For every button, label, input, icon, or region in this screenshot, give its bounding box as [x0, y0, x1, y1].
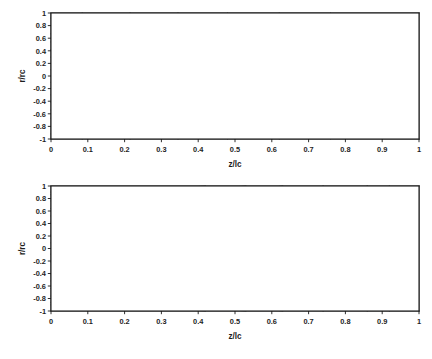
y-tick-label: -0.4 — [33, 269, 47, 278]
y-tick-label: 0.2 — [36, 59, 46, 68]
y-tick-label: -0.8 — [33, 294, 46, 303]
y-tick-label: 1 — [42, 182, 46, 191]
y-tick-label: 1 — [42, 9, 46, 18]
y-axis: 10.80.60.40.20-0.2-0.4-0.6-0.8-1 — [33, 9, 51, 144]
x-tick-label: 0.1 — [83, 145, 93, 154]
y-tick-label: 0.4 — [36, 219, 47, 228]
y-tick-label: 0 — [42, 72, 46, 81]
x-tick-label: 0.2 — [119, 317, 129, 326]
y-axis-title-group: r/rc — [18, 241, 27, 255]
x-tick-label: 0.9 — [377, 317, 387, 326]
contour-plot-top-svg: 10.80.60.40.20-0.2-0.4-0.6-0.8-100.10.20… — [0, 0, 432, 180]
x-tick-label: 0.8 — [340, 145, 350, 154]
y-tick-label: -1 — [39, 135, 46, 144]
y-axis-title-group: r/rc — [18, 69, 27, 83]
y-axis-title: r/rc — [18, 69, 27, 83]
y-tick-label: 0.8 — [36, 194, 46, 203]
y-axis-title: r/rc — [18, 241, 27, 255]
y-tick-label: 0.4 — [36, 47, 47, 56]
y-tick-label: -0.6 — [33, 110, 46, 119]
x-tick-label: 0.9 — [377, 145, 387, 154]
x-tick-label: 0.2 — [119, 145, 129, 154]
figure-container: 10.80.60.40.20-0.2-0.4-0.6-0.8-100.10.20… — [0, 0, 432, 359]
x-tick-label: 0.5 — [230, 317, 240, 326]
contour-plot-bottom-svg: 10.80.60.40.20-0.2-0.4-0.6-0.8-100.10.20… — [0, 175, 432, 359]
x-tick-label: 0.6 — [267, 317, 277, 326]
y-tick-label: -0.4 — [33, 97, 47, 106]
x-tick-label: 0 — [49, 145, 53, 154]
x-tick-label: 0.3 — [156, 317, 166, 326]
y-tick-label: 0.2 — [36, 232, 46, 241]
plot-frame-overlay — [51, 186, 419, 311]
plot-frame-overlay — [51, 13, 419, 139]
y-tick-label: 0 — [42, 244, 46, 253]
y-tick-label: 0.6 — [36, 34, 46, 43]
x-tick-label: 0.7 — [303, 317, 313, 326]
y-tick-label: -0.6 — [33, 282, 46, 291]
y-tick-label: -0.2 — [33, 84, 46, 93]
y-axis: 10.80.60.40.20-0.2-0.4-0.6-0.8-1 — [33, 182, 51, 316]
x-tick-label: 0.1 — [83, 317, 93, 326]
x-tick-label: 0.4 — [193, 145, 204, 154]
x-tick-label: 0.7 — [303, 145, 313, 154]
x-axis: 00.10.20.30.40.50.60.70.80.91 — [49, 139, 421, 154]
x-axis: 00.10.20.30.40.50.60.70.80.91 — [49, 311, 421, 326]
y-tick-label: -1 — [39, 307, 46, 316]
contour-plot-top: 10.80.60.40.20-0.2-0.4-0.6-0.8-100.10.20… — [0, 0, 432, 180]
x-tick-label: 0.8 — [340, 317, 350, 326]
y-tick-label: -0.2 — [33, 257, 46, 266]
x-tick-label: 0.5 — [230, 145, 240, 154]
x-axis-title: z/lc — [228, 332, 242, 341]
contour-plot-bottom: 10.80.60.40.20-0.2-0.4-0.6-0.8-100.10.20… — [0, 175, 432, 359]
y-tick-label: 0.8 — [36, 21, 46, 30]
y-tick-label: 0.6 — [36, 207, 46, 216]
x-tick-label: 1 — [417, 145, 421, 154]
x-tick-label: 0.3 — [156, 145, 166, 154]
x-axis-title: z/lc — [228, 160, 242, 169]
x-tick-label: 0.6 — [267, 145, 277, 154]
x-tick-label: 0 — [49, 317, 53, 326]
y-tick-label: -0.8 — [33, 122, 46, 131]
x-tick-label: 1 — [417, 317, 421, 326]
x-tick-label: 0.4 — [193, 317, 204, 326]
